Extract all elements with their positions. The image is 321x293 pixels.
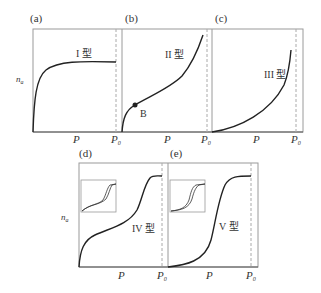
panel-label-c: (c) xyxy=(215,12,228,25)
top-row-frame xyxy=(33,29,303,132)
p0-label-a: P0 xyxy=(110,133,121,146)
type-label-iii: III 型 xyxy=(264,68,287,80)
p0-label-c: P0 xyxy=(290,133,301,146)
type-label-v: V 型 xyxy=(219,220,239,232)
panel-b: (b) B II 型 P P0 xyxy=(122,12,211,146)
type-label-i: I 型 xyxy=(76,47,92,59)
x-axis-label-a: P xyxy=(72,133,80,145)
point-b-label: B xyxy=(140,108,147,119)
isotherm-figure: (a) I 型 na P P0 (b) B II 型 P P0 (c) III … xyxy=(0,0,321,293)
panel-label-a: (a) xyxy=(30,12,43,25)
y-axis-label-a: na xyxy=(16,74,24,85)
panel-a: (a) I 型 na P P0 xyxy=(16,12,121,146)
p0-label-b: P0 xyxy=(200,133,211,146)
panel-e: (e) V 型 P P0 xyxy=(168,147,256,282)
x-axis-label-d: P xyxy=(117,269,125,281)
p0-label-d: P0 xyxy=(156,269,167,282)
hysteresis-inset-d xyxy=(81,180,116,212)
isotherm-curve-type-ii xyxy=(122,35,203,132)
top-row xyxy=(33,29,303,132)
type-label-iv: IV 型 xyxy=(132,222,155,234)
panel-label-b: (b) xyxy=(125,12,138,25)
p0-label-e: P0 xyxy=(245,269,256,282)
hysteresis-inset-e xyxy=(170,180,205,212)
y-axis-label-d: na xyxy=(61,212,69,223)
panel-d: (d) IV 型 na P P0 xyxy=(61,147,167,282)
point-b-marker xyxy=(133,103,138,108)
x-axis-label-b: P xyxy=(163,133,171,145)
x-axis-label-e: P xyxy=(205,269,213,281)
isotherm-curve-type-i xyxy=(33,62,116,132)
panel-label-e: (e) xyxy=(170,147,183,160)
isotherm-curve-type-iii xyxy=(212,50,291,132)
panel-c: (c) III 型 P P0 xyxy=(212,12,301,146)
panel-label-d: (d) xyxy=(79,147,92,160)
x-axis-label-c: P xyxy=(252,133,260,145)
type-label-ii: II 型 xyxy=(165,48,184,60)
